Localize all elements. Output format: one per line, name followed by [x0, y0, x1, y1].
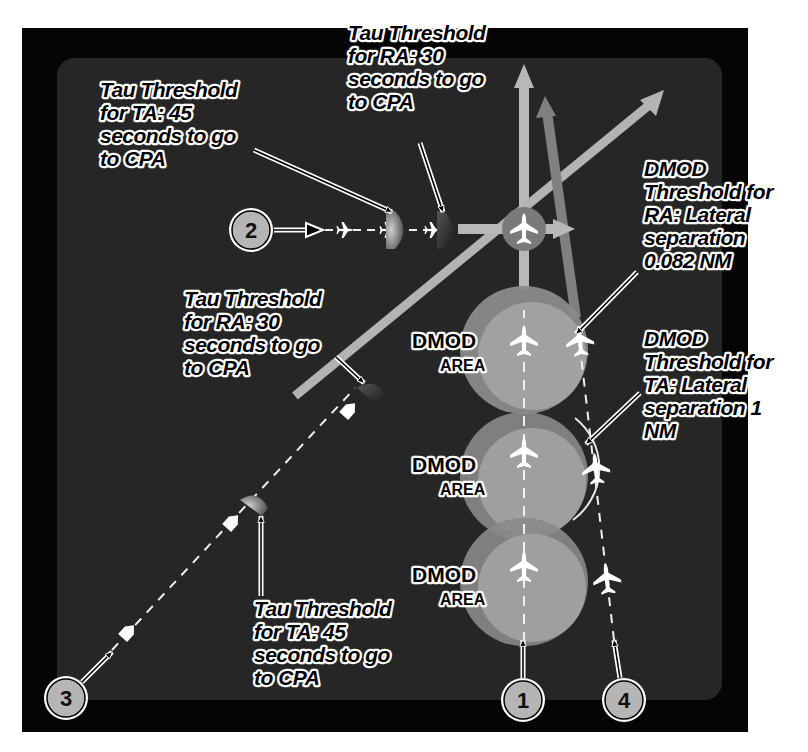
- svg-text:seconds to go: seconds to go: [254, 643, 391, 666]
- svg-text:Tau Threshold: Tau Threshold: [348, 21, 487, 44]
- svg-text:to CPA: to CPA: [184, 356, 249, 379]
- svg-text:Tau Threshold: Tau Threshold: [100, 78, 239, 101]
- svg-text:2: 2: [245, 218, 257, 243]
- badge-2: 2: [229, 208, 273, 252]
- svg-text:seconds to go: seconds to go: [348, 67, 485, 90]
- svg-text:seconds to go: seconds to go: [184, 333, 321, 356]
- svg-text:3: 3: [60, 686, 72, 711]
- badge-1: 1: [501, 678, 545, 722]
- svg-text:DMOD: DMOD: [644, 157, 706, 180]
- svg-text:to CPA: to CPA: [100, 147, 165, 170]
- svg-text:RA: Lateral: RA: Lateral: [644, 203, 752, 226]
- svg-text:for TA: 45: for TA: 45: [254, 620, 346, 643]
- badge-4: 4: [602, 678, 646, 722]
- svg-text:to CPA: to CPA: [254, 666, 319, 689]
- svg-text:for RA: 30: for RA: 30: [184, 310, 280, 333]
- svg-text:for RA: 30: for RA: 30: [348, 44, 444, 67]
- svg-text:NM: NM: [644, 419, 677, 442]
- tcas-threshold-diagram: 2 3 1 4: [0, 0, 808, 752]
- svg-text:AREA: AREA: [440, 481, 486, 498]
- svg-text:0.082 NM: 0.082 NM: [644, 249, 732, 272]
- svg-text:AREA: AREA: [440, 357, 486, 374]
- svg-text:DMOD: DMOD: [412, 563, 476, 586]
- svg-text:separation: separation: [644, 226, 745, 249]
- svg-text:DMOD: DMOD: [644, 327, 706, 350]
- svg-text:1: 1: [517, 688, 529, 713]
- svg-text:Threshold for: Threshold for: [644, 350, 775, 373]
- svg-text:DMOD: DMOD: [412, 453, 476, 476]
- svg-text:to CPA: to CPA: [348, 90, 413, 113]
- svg-text:seconds to go: seconds to go: [100, 124, 237, 147]
- svg-text:Tau Threshold: Tau Threshold: [184, 287, 323, 310]
- svg-text:AREA: AREA: [440, 591, 486, 608]
- svg-text:DMOD: DMOD: [412, 329, 476, 352]
- svg-text:Tau Threshold: Tau Threshold: [254, 597, 393, 620]
- svg-text:TA: Lateral: TA: Lateral: [644, 373, 748, 396]
- badge-3: 3: [44, 676, 88, 720]
- svg-text:Threshold for: Threshold for: [644, 180, 775, 203]
- svg-text:for TA: 45: for TA: 45: [100, 101, 192, 124]
- svg-text:4: 4: [618, 688, 631, 713]
- svg-text:separation 1: separation 1: [644, 396, 762, 419]
